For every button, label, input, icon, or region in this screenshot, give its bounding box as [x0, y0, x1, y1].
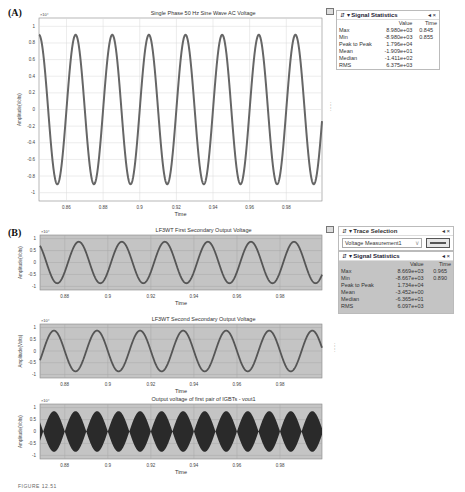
- col-time: Time: [426, 261, 453, 268]
- y-axis-label: Amplitude(Volts): [18, 246, 23, 279]
- table-row: Min-8.980e+030.855: [337, 34, 439, 41]
- x-tick-label: 0.98: [276, 463, 285, 468]
- signal-statistics-panel-a: ⇵ ▾ Signal Statistics ◂ × ValueTime Max8…: [336, 10, 440, 70]
- table-row: Mean-1.909e+01: [337, 48, 439, 55]
- y-tick-label: 1: [33, 325, 36, 330]
- trace-selection-panel: ⇵ ▾ Trace Selection ◂ × Voltage Measurem…: [338, 226, 454, 251]
- x-tick-label: 0.88: [60, 382, 69, 387]
- x-axis-label: Time: [174, 211, 186, 217]
- x-tick-label: 0.94: [190, 463, 199, 468]
- x-tick-label: 0.96: [233, 463, 242, 468]
- table-row: Peak to Peak1.734e+04: [339, 282, 453, 289]
- y-axis-label: Amplitude(Volts): [17, 93, 22, 126]
- panel-dock-close-icons[interactable]: ◂ ×: [442, 227, 450, 235]
- stats-table-a: ValueTime Max8.980e+030.845 Min-8.980e+0…: [337, 20, 439, 69]
- table-row: Max8.980e+030.845: [337, 27, 439, 34]
- y-tick-label: 1: [33, 405, 36, 410]
- y-tick-label: 0: [32, 107, 35, 112]
- x-tick-label: 0.9: [105, 294, 112, 299]
- chart-title: LF3WT First Secondary Output Voltage: [156, 227, 252, 233]
- panel-dock-close-icons[interactable]: ◂ ×: [428, 11, 436, 19]
- x-tick-label: 0.96: [233, 294, 242, 299]
- legend-toggle-icon-b[interactable]: [326, 226, 334, 233]
- table-row: RMS6.097e+03: [339, 303, 453, 310]
- table-row: Max8.669e+030.965: [339, 268, 453, 275]
- table-row: Median-1.411e+02: [337, 55, 439, 62]
- y-tick-label: -0.6: [27, 157, 35, 162]
- panel-title: Trace Selection: [353, 228, 397, 234]
- x-tick-label: 0.9: [105, 382, 112, 387]
- trace-select-dropdown[interactable]: Voltage Measurement1 ∨: [342, 238, 422, 248]
- y-multiplier: ×10⁴: [41, 398, 50, 403]
- x-axis-label: Time: [175, 300, 187, 306]
- panel-menu-icon[interactable]: ⇵ ▾: [342, 253, 352, 259]
- y-tick-label: 0: [33, 260, 36, 265]
- chart-title: Single Phase 50 Hz Sine Wave AC Voltage: [151, 10, 256, 16]
- splitter-handle-a[interactable]: :::: [330, 102, 333, 111]
- x-tick-label: 0.92: [172, 205, 181, 210]
- y-tick-label: 0.4: [29, 74, 36, 79]
- y-tick-label: 0.5: [30, 337, 37, 342]
- table-row: Mean-3.452e+00: [339, 289, 453, 296]
- y-axis-label: Amplitude(Volts): [18, 415, 23, 448]
- chart-title: Output voltage of first pair of IGBTs - …: [152, 396, 256, 402]
- x-tick-label: 0.88: [60, 294, 69, 299]
- y-tick-label: 0.5: [30, 248, 37, 253]
- x-tick-label: 0.92: [146, 294, 155, 299]
- panel-dock-close-icons[interactable]: ◂ ×: [442, 252, 450, 260]
- col-value: Value: [378, 20, 414, 27]
- x-tick-label: 0.92: [146, 463, 155, 468]
- splitter-handle-b[interactable]: :::: [334, 343, 337, 352]
- legend-toggle-icon-a[interactable]: [326, 8, 334, 15]
- y-multiplier: ×10⁴: [40, 12, 49, 17]
- col-time: Time: [414, 20, 439, 27]
- y-tick-label: -0.4: [27, 140, 35, 145]
- y-tick-label: 0: [33, 429, 36, 434]
- y-tick-label: 0.2: [29, 90, 36, 95]
- y-tick-label: -1: [31, 190, 35, 195]
- chevron-down-icon: ∨: [415, 239, 419, 247]
- y-multiplier: ×10⁴: [41, 229, 50, 234]
- panel-menu-icon[interactable]: ⇵ ▾: [342, 228, 352, 234]
- y-tick-label: 0.5: [30, 417, 37, 422]
- y-tick-label: -1: [32, 453, 36, 458]
- x-tick-label: 0.94: [190, 294, 199, 299]
- table-row: Median-6.365e+01: [339, 296, 453, 303]
- y-tick-label: -0.5: [28, 360, 36, 365]
- y-tick-label: -0.2: [27, 124, 35, 129]
- stats-table-b: ValueTime Max8.669e+030.965 Min-8.667e+0…: [339, 261, 453, 310]
- table-row: RMS6.375e+03: [337, 62, 439, 69]
- x-tick-label: 0.94: [190, 382, 199, 387]
- y-tick-label: -0.5: [28, 441, 36, 446]
- figure-caption: FIGURE 12.51: [18, 483, 57, 489]
- col-value: Value: [385, 261, 425, 268]
- y-tick-label: 0.6: [29, 57, 36, 62]
- y-tick-label: 1: [32, 24, 35, 29]
- panel-title: Signal Statistics: [353, 253, 399, 259]
- x-axis-label: Time: [175, 469, 187, 475]
- x-tick-label: 0.88: [99, 205, 108, 210]
- panel-title: Signal Statistics: [351, 12, 397, 18]
- panel-menu-icon[interactable]: ⇵ ▾: [340, 12, 350, 18]
- y-tick-label: 0.8: [29, 40, 36, 45]
- x-tick-label: 0.9: [105, 463, 112, 468]
- x-tick-label: 0.96: [245, 205, 254, 210]
- y-tick-label: -0.8: [27, 174, 35, 179]
- x-tick-label: 0.96: [233, 382, 242, 387]
- x-tick-label: 0.94: [209, 205, 218, 210]
- y-tick-label: -1: [32, 372, 36, 377]
- x-tick-label: 0.98: [276, 294, 285, 299]
- x-tick-label: 0.86: [62, 205, 71, 210]
- table-row: Peak to Peak1.796e+04: [337, 41, 439, 48]
- y-multiplier: ×10⁴: [41, 318, 50, 323]
- x-tick-label: 0.92: [146, 382, 155, 387]
- signal-statistics-panel-b: ⇵ ▾ Signal Statistics ◂ × ValueTime Max8…: [338, 251, 454, 314]
- y-tick-label: -0.5: [28, 272, 36, 277]
- table-row: Min-8.667e+030.890: [339, 275, 453, 282]
- x-axis-label: Time: [175, 388, 187, 394]
- y-tick-label: -1: [32, 284, 36, 289]
- trace-style-button[interactable]: [426, 238, 450, 248]
- y-tick-label: 1: [33, 236, 36, 241]
- line-style-icon: [430, 242, 446, 244]
- x-tick-label: 0.88: [60, 463, 69, 468]
